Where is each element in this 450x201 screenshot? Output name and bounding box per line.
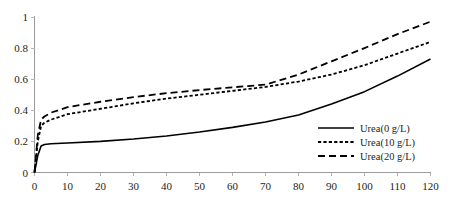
chart-legend: Urea(0 g/L)Urea(10 g/L)Urea(20 g/L) (318, 123, 416, 163)
x-tick-label: 80 (293, 180, 305, 192)
x-tick-label: 30 (128, 180, 140, 192)
x-tick-label: 60 (227, 180, 239, 192)
y-axis-group: 00.20.40.60.81 (14, 11, 34, 179)
x-tick-label: 40 (161, 180, 173, 192)
y-tick-labels: 00.20.40.60.81 (14, 11, 28, 179)
y-tick-label: 0.2 (14, 135, 28, 147)
x-tick-marks (35, 173, 431, 177)
plot-series-group (35, 22, 431, 173)
series-line-2 (35, 22, 431, 173)
x-tick-label: 20 (95, 180, 107, 192)
y-tick-marks (31, 17, 35, 173)
x-tick-label: 110 (389, 180, 406, 192)
y-tick-label: 0.6 (14, 73, 28, 85)
y-tick-label: 0.8 (14, 42, 28, 54)
x-tick-label: 120 (422, 180, 439, 192)
y-tick-label: 0.4 (14, 104, 28, 116)
y-tick-label: 0 (23, 167, 29, 179)
y-tick-label: 1 (23, 11, 29, 23)
line-chart: 00.20.40.60.81 0102030405060708090100110… (0, 0, 450, 201)
x-tick-label: 10 (62, 180, 74, 192)
x-tick-label: 0 (32, 180, 38, 192)
legend-label-2: Urea(20 g/L) (360, 151, 416, 163)
x-tick-labels: 0102030405060708090100110120 (32, 180, 440, 192)
x-tick-label: 90 (326, 180, 338, 192)
legend-label-0: Urea(0 g/L) (360, 123, 410, 135)
x-tick-label: 100 (356, 180, 373, 192)
legend-label-1: Urea(10 g/L) (360, 137, 416, 149)
x-tick-label: 70 (260, 180, 272, 192)
x-tick-label: 50 (194, 180, 206, 192)
x-axis-group: 0102030405060708090100110120 (32, 173, 440, 193)
